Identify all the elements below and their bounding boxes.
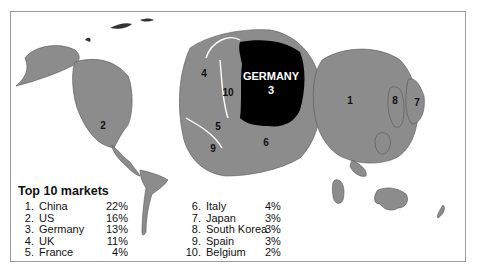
label-uk: 4 <box>201 68 207 79</box>
legend-country: France <box>39 247 73 259</box>
legend-row: 1.China22% <box>18 201 138 213</box>
label-spain: 9 <box>210 143 216 154</box>
india-shape <box>375 133 390 154</box>
label-japan: 7 <box>414 97 420 108</box>
south-america-shape <box>140 170 168 235</box>
label-south-korea: 8 <box>392 95 398 106</box>
label-china: 1 <box>347 95 353 106</box>
legend-row: 10.Belgium2% <box>185 247 325 259</box>
legend-country: Italy <box>206 201 226 213</box>
legend-row: 6.Italy4% <box>185 201 325 213</box>
legend-country: Germany <box>39 224 84 236</box>
legend-row: 3.Germany13% <box>18 224 138 236</box>
label-belgium: 10 <box>222 87 234 98</box>
legend: Top 10 markets 1.China22% 2.US16% 3.Germ… <box>18 184 318 200</box>
legend-rank: 8. <box>185 224 201 236</box>
legend-percent: 13% <box>90 224 128 236</box>
label-us: 2 <box>100 120 106 131</box>
legend-percent: 3% <box>265 224 300 236</box>
label-france: 5 <box>215 121 221 132</box>
legend-rank: 3. <box>18 224 34 236</box>
legend-rank: 10. <box>185 247 201 259</box>
legend-percent: 22% <box>90 201 128 213</box>
new-zealand-shape <box>437 205 444 218</box>
legend-row: 8.South Korea3% <box>185 224 325 236</box>
legend-country: China <box>39 201 68 213</box>
legend-title: Top 10 markets <box>18 184 318 198</box>
label-italy: 6 <box>263 137 269 148</box>
legend-country: Belgium <box>206 247 246 259</box>
us-shape <box>73 59 133 148</box>
label-germany-name: GERMANY <box>243 70 300 82</box>
legend-column-left: 1.China22% 2.US16% 3.Germany13% 4.UK11% … <box>18 201 138 259</box>
sri-lanka-shape <box>332 180 344 204</box>
legend-percent: 2% <box>265 247 300 259</box>
label-germany-rank: 3 <box>268 84 274 96</box>
legend-percent: 4% <box>90 247 128 259</box>
legend-rank: 6. <box>185 201 201 213</box>
legend-percent: 4% <box>265 201 300 213</box>
alaska-shape <box>16 46 79 86</box>
legend-rank: 1. <box>18 201 34 213</box>
legend-row: 5.France4% <box>18 247 138 259</box>
australia-shape <box>375 188 408 210</box>
legend-country: South Korea <box>206 224 267 236</box>
legend-column-right: 6.Italy4% 7.Japan3% 8.South Korea3% 9.Sp… <box>185 201 325 259</box>
central-america-shape <box>112 145 140 176</box>
legend-rank: 5. <box>18 247 34 259</box>
